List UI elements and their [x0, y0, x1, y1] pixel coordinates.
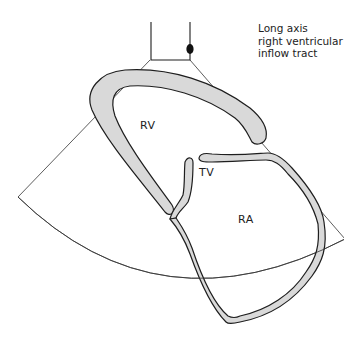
tricuspid-leaflet [170, 158, 193, 219]
figure-caption: Long axis right ventricular inflow tract [258, 22, 343, 60]
right-ventricle-wall [90, 70, 266, 215]
right-atrium-wall [170, 153, 325, 324]
transducer-probe [151, 22, 194, 60]
ultrasound-sector [18, 60, 344, 278]
label-right-atrium: RA [238, 213, 254, 226]
label-right-ventricle: RV [140, 119, 156, 132]
label-tricuspid-valve: TV [199, 166, 214, 179]
probe-marker-icon [186, 44, 193, 54]
